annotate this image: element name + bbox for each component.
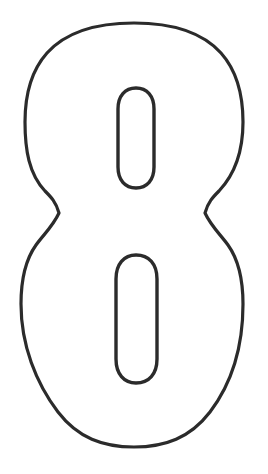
image-canvas — [0, 0, 268, 474]
digit-eight-lower-counter — [116, 255, 157, 383]
digit-eight-upper-counter — [118, 88, 154, 188]
digit-eight-outline-figure — [0, 0, 268, 474]
